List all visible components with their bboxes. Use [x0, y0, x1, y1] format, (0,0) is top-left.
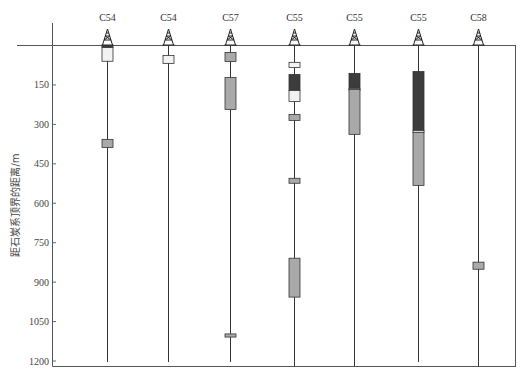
well-column: C54 — [99, 12, 116, 362]
well-label: C54 — [99, 12, 116, 23]
interval-gray — [413, 132, 424, 185]
oil-derrick-icon — [289, 29, 301, 45]
derrick-frame — [473, 29, 485, 45]
well-section-diagram: 15030045060075090010501200 距石炭系顶界的距离/m C… — [0, 0, 525, 382]
derrick-frame — [413, 29, 425, 45]
well-label: C54 — [160, 12, 177, 23]
derrick-frame — [102, 29, 114, 45]
interval-white — [102, 48, 113, 62]
interval-gray — [289, 258, 300, 297]
y-axis-title: 距石炭系顶界的距离/m — [9, 153, 21, 256]
derrick-frame — [349, 29, 361, 45]
interval-gray — [289, 114, 300, 120]
oil-derrick-icon — [473, 29, 485, 45]
oil-derrick-icon — [413, 29, 425, 45]
derrick-frame — [225, 29, 237, 45]
axes — [17, 23, 516, 367]
y-tick-label: 750 — [34, 237, 49, 248]
interval-dark — [413, 72, 424, 131]
well-label: C58 — [470, 12, 487, 23]
well-column: C57 — [222, 12, 239, 362]
interval-gray — [473, 262, 484, 269]
well-column: C58 — [470, 12, 487, 366]
well-label: C55 — [410, 12, 427, 23]
derrick-frame — [289, 29, 301, 45]
well-column: C54 — [160, 12, 177, 362]
wells: C54C54C57C55C55C55C58 — [99, 12, 487, 366]
well-column: C55 — [346, 12, 363, 366]
y-tick-label: 150 — [34, 79, 49, 90]
interval-gray — [289, 178, 300, 183]
y-tick-label: 450 — [34, 158, 49, 169]
y-tick-label: 900 — [34, 277, 49, 288]
interval-white — [289, 90, 300, 101]
oil-derrick-icon — [102, 29, 114, 45]
interval-gray — [102, 139, 113, 147]
y-axis-ticks: 15030045060075090010501200 — [29, 79, 56, 366]
oil-derrick-icon — [349, 29, 361, 45]
interval-dark — [349, 73, 360, 88]
interval-white — [163, 55, 174, 63]
y-tick-label: 600 — [34, 198, 49, 209]
y-tick-label: 1050 — [29, 316, 49, 327]
well-column: C55 — [410, 12, 427, 362]
interval-gray — [225, 334, 236, 337]
interval-gray — [349, 89, 360, 134]
oil-derrick-icon — [225, 29, 237, 45]
well-label: C57 — [222, 12, 239, 23]
derrick-frame — [163, 29, 175, 45]
interval-gray — [225, 53, 236, 62]
interval-dark — [289, 74, 300, 90]
interval-white — [289, 62, 300, 67]
well-label: C55 — [286, 12, 303, 23]
oil-derrick-icon — [163, 29, 175, 45]
interval-gray — [225, 78, 236, 110]
well-column: C55 — [286, 12, 303, 366]
well-label: C55 — [346, 12, 363, 23]
y-tick-label: 300 — [34, 119, 49, 130]
y-tick-label: 1200 — [29, 356, 49, 367]
